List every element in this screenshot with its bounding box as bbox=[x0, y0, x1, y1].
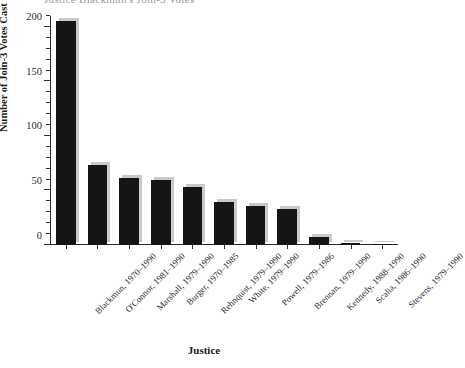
y-axis-major-tick bbox=[44, 244, 50, 245]
y-axis-minor-tick bbox=[46, 48, 50, 49]
bar bbox=[277, 206, 297, 245]
bar-body bbox=[151, 180, 171, 245]
y-axis-major-tick bbox=[44, 80, 50, 81]
y-axis-minor-tick bbox=[46, 15, 50, 16]
bar bbox=[151, 177, 171, 245]
bar-body bbox=[214, 202, 234, 245]
bar-body bbox=[246, 206, 266, 245]
y-axis-minor-tick bbox=[46, 233, 50, 234]
x-axis-tick bbox=[66, 245, 67, 249]
x-axis-tick bbox=[256, 245, 257, 249]
bar-body bbox=[309, 237, 329, 245]
bar-shadow bbox=[375, 241, 395, 242]
y-axis-minor-tick bbox=[46, 211, 50, 212]
bar bbox=[88, 162, 108, 245]
bar bbox=[183, 184, 203, 245]
x-axis-tick bbox=[97, 245, 98, 249]
y-axis-minor-tick bbox=[46, 146, 50, 147]
y-axis-major-tick bbox=[44, 26, 50, 27]
y-axis-title: Number of Join-3 Votes Cast bbox=[0, 3, 9, 132]
y-axis-major-tick bbox=[44, 135, 50, 136]
bar-shadow bbox=[344, 240, 364, 242]
y-axis-minor-tick bbox=[46, 168, 50, 169]
bar bbox=[56, 18, 76, 245]
bar bbox=[119, 175, 139, 245]
y-axis-minor-tick bbox=[46, 59, 50, 60]
x-axis-tick bbox=[287, 245, 288, 249]
y-axis-tick-label: 50 bbox=[32, 174, 43, 185]
y-axis-minor-tick bbox=[46, 113, 50, 114]
bar bbox=[246, 203, 266, 245]
x-axis-tick bbox=[224, 245, 225, 249]
x-axis-tick bbox=[351, 245, 352, 249]
x-axis-tick bbox=[192, 245, 193, 249]
bar bbox=[214, 199, 234, 245]
y-axis-minor-tick bbox=[46, 37, 50, 38]
y-axis-tick-label: 0 bbox=[37, 229, 42, 240]
bar-body bbox=[119, 178, 139, 245]
x-axis-title: Justice bbox=[0, 344, 408, 356]
x-axis-tick bbox=[382, 245, 383, 249]
y-axis-minor-tick bbox=[46, 70, 50, 71]
y-axis-tick-label: 100 bbox=[26, 120, 42, 131]
y-axis-minor-tick bbox=[46, 91, 50, 92]
y-axis-minor-tick bbox=[46, 102, 50, 103]
x-axis-tick bbox=[319, 245, 320, 249]
y-axis-line bbox=[50, 16, 51, 245]
x-axis-tick bbox=[161, 245, 162, 249]
plot-area: 050100150200 bbox=[50, 16, 398, 245]
bar-body bbox=[183, 187, 203, 245]
y-axis-tick-label: 150 bbox=[26, 65, 42, 76]
bar-body bbox=[56, 21, 76, 245]
x-axis-tick bbox=[129, 245, 130, 249]
y-axis-tick-label: 200 bbox=[26, 11, 42, 22]
chart-title-clipped: Justice Blackmun's Join-3 Votes bbox=[44, 0, 195, 5]
y-axis-minor-tick bbox=[46, 222, 50, 223]
bar-body bbox=[88, 165, 108, 245]
bar-body bbox=[277, 209, 297, 245]
bar bbox=[309, 234, 329, 245]
y-axis-minor-tick bbox=[46, 124, 50, 125]
y-axis-minor-tick bbox=[46, 179, 50, 180]
y-axis-minor-tick bbox=[46, 157, 50, 158]
y-axis-major-tick bbox=[44, 189, 50, 190]
y-axis-minor-tick bbox=[46, 200, 50, 201]
